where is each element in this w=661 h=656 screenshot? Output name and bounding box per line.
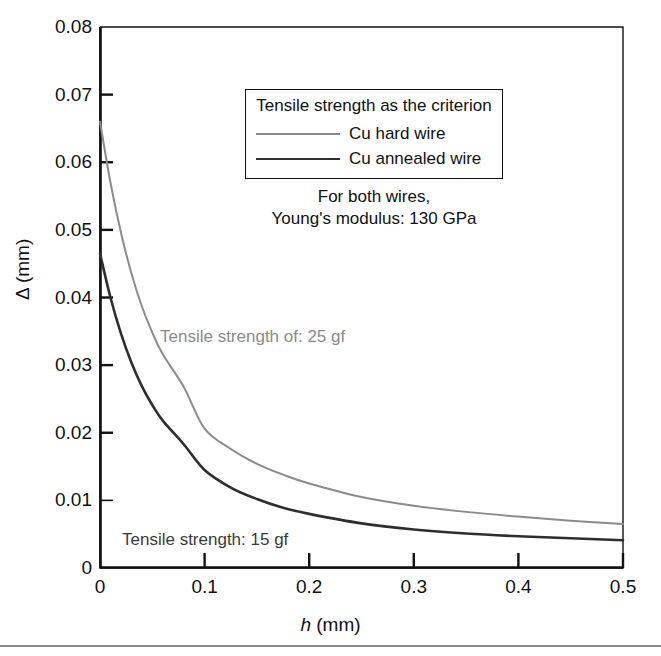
x-tick-label: 0: [95, 576, 106, 598]
figure-bottom-divider: [0, 645, 661, 647]
y-tick-label: 0.03: [0, 354, 92, 376]
legend-label-hard: Cu hard wire: [349, 124, 445, 144]
legend-label-annealed: Cu annealed wire: [349, 149, 481, 169]
x-tick-label: 0.1: [191, 576, 217, 598]
annotation-hard-wire: Tensile strength of: 25 gf: [160, 327, 345, 347]
x-tick-label: 0.5: [610, 576, 636, 598]
x-tick-label: 0.2: [296, 576, 322, 598]
legend-note-line-1: For both wires,: [245, 186, 503, 208]
x-axis-unit: (mm): [311, 614, 361, 635]
x-tick-label: 0.3: [401, 576, 427, 598]
data-curve: [100, 122, 623, 524]
y-tick-label: 0.06: [0, 151, 92, 173]
legend-title: Tensile strength as the criterion: [246, 96, 502, 116]
legend-item-cu-hard-wire: Cu hard wire: [256, 124, 445, 144]
legend-note-line-2: Young's modulus: 130 GPa: [245, 208, 503, 230]
legend-line-icon-annealed: [256, 158, 340, 160]
y-tick-label: 0.02: [0, 422, 92, 444]
legend: Tensile strength as the criterion Cu har…: [245, 89, 503, 179]
x-tick-label: 0.4: [505, 576, 531, 598]
annotation-annealed-wire: Tensile strength: 15 gf: [122, 530, 288, 550]
figure-container: 00.010.020.030.040.050.060.070.08 00.10.…: [0, 0, 661, 656]
y-axis-title: Δ (mm): [12, 239, 34, 300]
y-tick-label: 0.08: [0, 16, 92, 38]
x-axis-symbol: h: [300, 614, 311, 635]
y-tick-label: 0.01: [0, 489, 92, 511]
x-axis-ticks: [205, 553, 623, 568]
legend-note: For both wires, Young's modulus: 130 GPa: [245, 186, 503, 230]
y-tick-label: 0: [0, 557, 92, 579]
legend-item-cu-annealed-wire: Cu annealed wire: [256, 149, 481, 169]
y-tick-label: 0.05: [0, 219, 92, 241]
legend-line-icon-hard: [256, 133, 340, 135]
x-axis-title: h (mm): [0, 614, 661, 636]
y-tick-label: 0.07: [0, 84, 92, 106]
